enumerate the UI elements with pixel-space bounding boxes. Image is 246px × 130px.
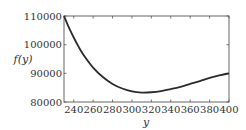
x-tick-label: 380 — [200, 104, 219, 115]
y-tick-label: 90000 — [30, 68, 62, 79]
plot-frame — [64, 16, 229, 102]
x-tick-label: 280 — [103, 104, 122, 115]
x-tick-label: 260 — [84, 104, 103, 115]
y-tick-label: 80000 — [30, 97, 62, 108]
axis-ticks — [64, 16, 229, 102]
y-axis-label: f(y) — [13, 53, 33, 66]
x-axis-label: y — [142, 116, 150, 129]
x-tick-label: 300 — [122, 104, 141, 115]
x-tick-label: 240 — [64, 104, 83, 115]
x-tick-label: 400 — [219, 104, 238, 115]
y-tick-label: 100000 — [24, 39, 62, 50]
x-tick-label: 360 — [181, 104, 200, 115]
x-tick-label: 340 — [161, 104, 180, 115]
y-tick-label: 110000 — [24, 11, 62, 22]
x-tick-labels: 240260280300320340360380400 — [64, 104, 238, 115]
line-chart: 240260280300320340360380400 800009000010… — [0, 0, 246, 130]
x-tick-label: 320 — [142, 104, 161, 115]
data-line — [64, 16, 229, 93]
